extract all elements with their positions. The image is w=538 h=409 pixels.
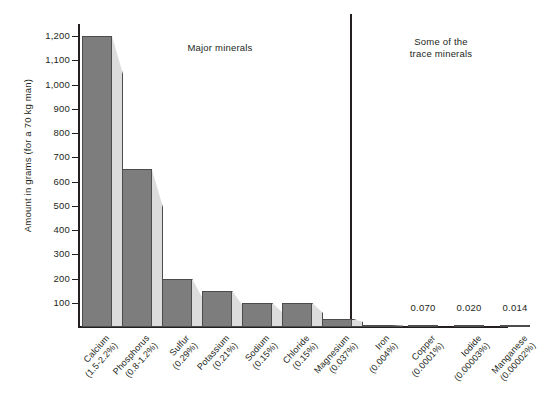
y-axis-tick-label: 600: [30, 177, 70, 187]
bar-face: [362, 325, 392, 327]
value-label-copper: 0.070: [400, 302, 446, 313]
y-axis-tick-label: 1,100: [30, 55, 70, 65]
bar-chloride: [282, 303, 312, 327]
y-axis-tick-label: 1,200: [30, 31, 70, 41]
bar-face: [82, 36, 112, 327]
y-axis-tick-label: 500: [30, 201, 70, 211]
bar-iodide: [454, 326, 484, 328]
y-axis-tick-label: 1,000: [30, 80, 70, 90]
bar-iron: [362, 326, 392, 328]
y-axis-tick-label: 300: [30, 249, 70, 259]
y-axis-tick-label: 700: [30, 152, 70, 162]
bar-face: [500, 325, 530, 327]
bar-face: [162, 279, 192, 327]
bar-manganese: [500, 326, 530, 328]
y-axis-tick-label: 100: [30, 298, 70, 308]
value-label-manganese: 0.014: [492, 302, 538, 313]
bar-face: [454, 325, 484, 327]
bar-magnesium: [322, 319, 352, 327]
plot-area: [78, 24, 508, 327]
bar-side-panel: [392, 325, 403, 327]
bar-sodium: [242, 303, 272, 327]
bar-copper: [408, 326, 438, 328]
y-axis-tick-label: 200: [30, 274, 70, 284]
y-axis-tick-label: 900: [30, 104, 70, 114]
bar-calcium: [82, 36, 112, 327]
bar-face: [202, 291, 232, 327]
bar-face: [322, 319, 352, 327]
bar-phosphorus: [122, 169, 152, 327]
bar-face: [242, 303, 272, 327]
bar-face: [408, 325, 438, 327]
bar-face: [122, 169, 152, 327]
bar-sulfur: [162, 279, 192, 327]
bar-face: [282, 303, 312, 327]
value-label-iodide: 0.020: [446, 302, 492, 313]
bar-potassium: [202, 291, 232, 327]
y-axis-tick-label: 800: [30, 128, 70, 138]
y-axis-tick-label: 400: [30, 225, 70, 235]
